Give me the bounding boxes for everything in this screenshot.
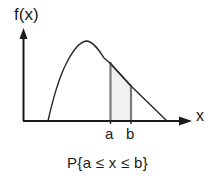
y-axis-arrowhead-icon	[20, 28, 28, 39]
probability-caption: P{a ≤ x ≤ b}	[0, 154, 215, 171]
density-curve	[48, 41, 167, 121]
probability-density-figure: f(x) x a b P{a ≤ x ≤ b}	[0, 0, 215, 183]
tick-label-a: a	[105, 126, 113, 141]
tick-label-b: b	[126, 126, 134, 141]
x-axis-label: x	[196, 108, 204, 124]
y-axis-label: f(x)	[14, 6, 39, 23]
x-axis-arrowhead-icon	[179, 117, 192, 126]
shaded-area-under-curve	[110, 63, 131, 121]
